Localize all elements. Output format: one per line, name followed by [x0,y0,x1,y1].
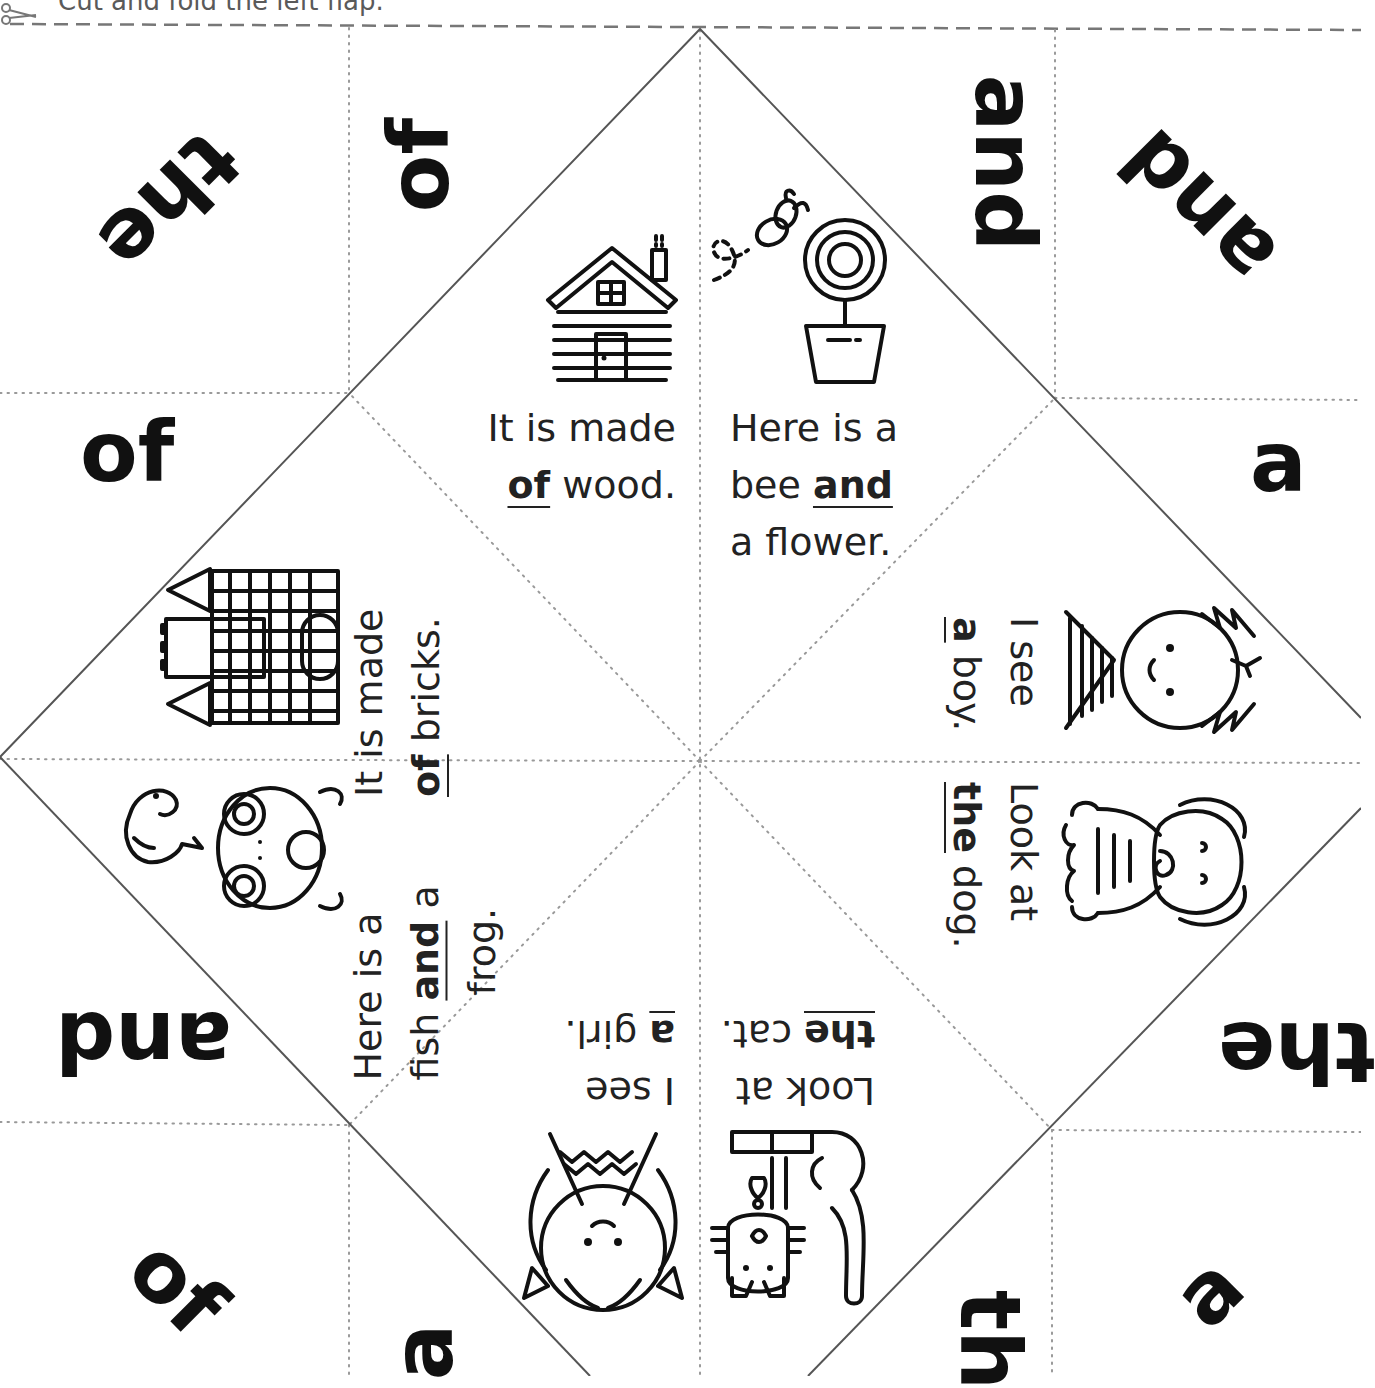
fish-and-frog-icon [110,778,350,918]
sentence-fish-frog: Here is a fish and a frog. [340,791,511,1081]
sight-word-top-inner-right: and [963,75,1047,252]
sight-word-and: and [403,921,447,1001]
castle-icon [160,565,345,730]
sight-word-a: a [945,617,989,643]
sight-word-left-upper: of [80,410,174,494]
sentence-house: It is made of wood. [486,400,676,514]
dog-icon [1062,795,1252,930]
sight-word-bottom-inner-right: th [948,1290,1032,1388]
sight-word-bottom-inner-left: a [381,1324,465,1381]
girl-icon [520,1130,685,1315]
bee-and-flower-icon [710,190,895,385]
sentence-cat: Look at the cat. [725,1005,875,1119]
sight-word-right-upper: a [1250,420,1307,504]
log-cabin-icon [540,232,685,382]
sight-word-top-inner-left: of [377,118,461,212]
sentence-dog: Look at the dog. [938,782,1052,1012]
sentence-castle: It is made of bricks. [341,537,455,797]
sight-word-the: the [804,1012,875,1056]
sight-word-a: a [649,1012,675,1056]
boy-icon [1062,600,1267,740]
sight-word-left-lower: and [55,1000,232,1084]
sentence-girl: I see a girl. [555,1005,675,1119]
sentence-boy: I see a boy. [938,617,1052,797]
sight-word-right-lower: the [1218,1010,1375,1094]
cat-icon [712,1128,872,1308]
sight-word-of: of [507,463,550,507]
sight-word-the: the [945,782,989,853]
sight-word-and: and [813,463,893,507]
sentence-flower: Here is a bee and a flower. [730,400,898,571]
